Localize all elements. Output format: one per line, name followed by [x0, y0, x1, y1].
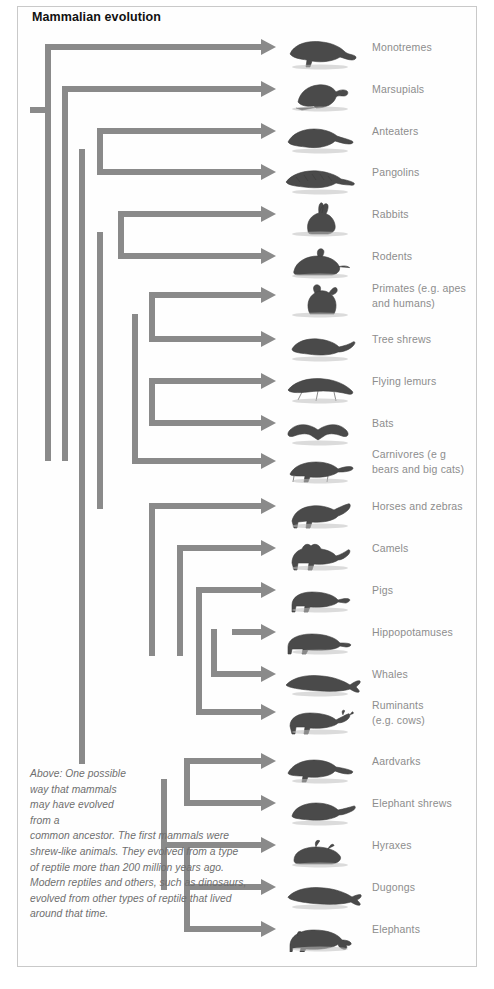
taxon-label-rodents: Rodents [372, 249, 484, 264]
taxon-label-hippopotamuses: Hippopotamuses [372, 625, 484, 640]
taxon-label-line2: and humans) [372, 296, 484, 311]
taxon-label-monotremes: Monotremes [372, 40, 484, 55]
taxon-label-line1: Ruminants [372, 699, 424, 711]
taxon-label-line1: Whales [372, 668, 408, 680]
taxon-label-line1: Rabbits [372, 208, 409, 220]
taxon-label-aardvarks: Aardvarks [372, 754, 484, 769]
taxon-label-line1: Rodents [372, 250, 412, 262]
taxon-label-carnivores: Carnivores (e gbears and big cats) [372, 447, 484, 477]
taxon-label-elephant-shrews: Elephant shrews [372, 796, 484, 811]
caption-narrow-part: Above: One possible way that mammals may… [30, 766, 134, 828]
taxon-label-whales: Whales [372, 667, 484, 682]
taxon-label-rabbits: Rabbits [372, 207, 484, 222]
taxon-label-line1: Dugongs [372, 881, 415, 893]
taxon-label-pangolins: Pangolins [372, 165, 484, 180]
taxon-label-line1: Tree shrews [372, 333, 431, 345]
taxon-label-line1: Flying lemurs [372, 375, 436, 387]
taxon-label-bats: Bats [372, 416, 484, 431]
taxon-label-ruminants: Ruminants(e.g. cows) [372, 698, 484, 728]
mammalian-evolution-figure: Mammalian evolution MonotremesMarsupials… [0, 0, 494, 989]
taxon-label-line1: Carnivores (e g [372, 448, 446, 460]
taxon-label-line1: Camels [372, 542, 409, 554]
taxon-label-elephants: Elephants [372, 922, 484, 937]
taxon-label-line1: Primates (e.g. apes [372, 282, 466, 294]
taxon-label-camels: Camels [372, 541, 484, 556]
caption-rest-part: common ancestor. The first mammals were … [30, 830, 246, 919]
taxon-label-line1: Horses and zebras [372, 500, 463, 512]
taxon-label-horses-zebras: Horses and zebras [372, 499, 484, 514]
taxon-label-pigs: Pigs [372, 583, 484, 598]
taxon-label-line1: Elephant shrews [372, 797, 452, 809]
taxon-label-hyraxes: Hyraxes [372, 838, 484, 853]
taxon-label-line1: Marsupials [372, 83, 424, 95]
taxon-label-tree-shrews: Tree shrews [372, 332, 484, 347]
taxon-label-line1: Aardvarks [372, 755, 421, 767]
taxon-label-marsupials: Marsupials [372, 82, 484, 97]
taxon-label-dugongs: Dugongs [372, 880, 484, 895]
taxon-label-flying-lemurs: Flying lemurs [372, 374, 484, 389]
figure-caption: Above: One possible way that mammals may… [30, 766, 248, 922]
taxon-label-line1: Anteaters [372, 125, 418, 137]
taxon-label-anteaters: Anteaters [372, 124, 484, 139]
taxon-label-line2: (e.g. cows) [372, 713, 484, 728]
taxon-label-line1: Hippopotamuses [372, 626, 453, 638]
taxon-label-line1: Hyraxes [372, 839, 412, 851]
taxon-label-primates: Primates (e.g. apesand humans) [372, 281, 484, 311]
taxon-label-line1: Monotremes [372, 41, 432, 53]
taxon-label-line1: Pangolins [372, 166, 419, 178]
taxon-label-line1: Bats [372, 417, 394, 429]
taxon-label-line1: Elephants [372, 923, 420, 935]
taxon-label-line1: Pigs [372, 584, 393, 596]
taxon-label-line2: bears and big cats) [372, 462, 484, 477]
